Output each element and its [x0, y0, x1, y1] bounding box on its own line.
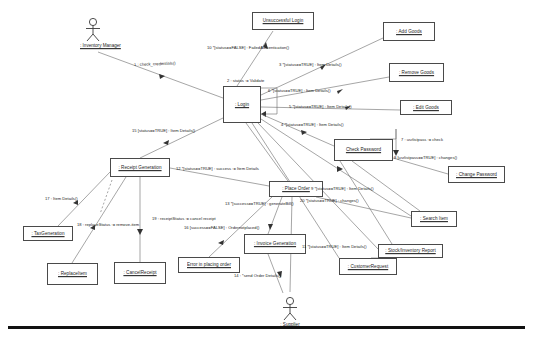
message-label-m14: 14 : *send Order Details(): [234, 273, 281, 278]
object-node-receipt-generation[interactable]: : Receipt Generation: [110, 158, 170, 177]
message-label-m18: 18 : replaceStatus := remove-item: [77, 222, 139, 227]
object-node-customer-request[interactable]: : CustomerRequest: [339, 258, 397, 275]
object-label-customer-request: : CustomerRequest: [348, 264, 388, 270]
message-label-m4: 4 *[status==TRUE] : Item Details(): [281, 122, 344, 127]
object-node-login[interactable]: : Login: [223, 86, 261, 123]
object-node-unsuccessful-login[interactable]: Unsuccessful Login: [252, 12, 314, 30]
object-node-cancel-receipt[interactable]: : CancelReceipt: [114, 262, 166, 284]
object-node-stock-inventory-report[interactable]: : Stock/Inventory Report: [378, 244, 443, 258]
object-label-error-placing-order: Error in placing order: [187, 262, 231, 268]
object-label-cancel-receipt: : CancelReceipt: [123, 270, 156, 276]
message-label-m2: 2 : status := Validate: [227, 78, 264, 83]
actor-label-inventory-manager: : Inventory Manager: [80, 43, 106, 48]
message-label-m17: 17 : Item Details(): [45, 196, 78, 201]
uml-collaboration-diagram: Unsuccessful Login: Add Goods: Remove Go…: [0, 0, 533, 339]
object-label-add-goods: : Add Goods: [396, 29, 422, 35]
message-label-m20: 20 *[status==TRUE] : changes(): [300, 198, 359, 203]
actor-inventory-manager[interactable]: : Inventory Manager: [80, 17, 106, 48]
object-node-add-goods[interactable]: : Add Goods: [383, 22, 435, 41]
message-label-m12: 12 *[status==TRUE] : success := Item Det…: [176, 166, 259, 171]
object-label-change-password: : Change Password: [456, 172, 497, 178]
message-label-m5: 5 *[status==TRUE] : Item Details(): [289, 104, 352, 109]
object-label-stock-inventory-report: : Stock/Inventory Report: [385, 248, 435, 254]
object-label-edit-goods: : Edit Goods: [413, 105, 439, 111]
object-node-edit-goods[interactable]: : Edit Goods: [400, 100, 452, 115]
object-node-replace-item[interactable]: : ReplaceItem: [47, 263, 98, 285]
message-label-m9: 9 *[status==TRUE] : Item Details(): [311, 186, 374, 191]
actor-supplier[interactable]: : Supplier: [277, 296, 303, 327]
object-node-invoice-generation[interactable]: : Invoice Generation: [244, 234, 306, 254]
message-label-m7: 7 : usrlistpass := check: [401, 137, 443, 142]
object-node-tax-generation[interactable]: : TaxGeneration: [23, 226, 73, 241]
footer-rule: [8, 326, 525, 329]
object-node-search-item[interactable]: : Search Item: [411, 211, 457, 227]
message-label-m11: 11 *[status==TRUE] : Item Details(): [302, 244, 367, 249]
object-node-check-password[interactable]: Check Password: [334, 139, 393, 161]
message-label-m1: 1 : check_credentials(): [134, 61, 176, 67]
message-label-m19: 19 : receiptStatus := cancel receipt: [152, 216, 216, 221]
object-label-unsuccessful-login: Unsuccessful Login: [263, 18, 304, 24]
object-label-invoice-generation: : Invoice Generation: [254, 241, 296, 247]
message-label-m13: 13 *[success==TRUE] : generateBill(): [225, 201, 294, 206]
object-label-check-password: Check Password: [346, 147, 381, 153]
object-label-login: : Login: [235, 102, 249, 108]
object-node-error-placing-order[interactable]: Error in placing order: [178, 257, 240, 273]
object-node-change-password[interactable]: : Change Password: [448, 166, 505, 183]
diagram-node-layer: Unsuccessful Login: Add Goods: Remove Go…: [0, 0, 533, 339]
object-label-replace-item: : ReplaceItem: [58, 271, 87, 277]
message-label-m16: 16 [success==FALSE] : Ordernotplaced(): [184, 225, 259, 230]
message-label-m3: 3 *[status==TRUE] : Item Details(): [279, 62, 342, 67]
object-label-remove-goods: : Remove Goods: [399, 70, 434, 76]
message-label-m6: 6 *[status==TRUE] : Item Details(): [268, 88, 331, 93]
message-label-m8: 8 [usrlistpass==TRUE] : changes(): [394, 155, 457, 160]
object-label-receipt-generation: : Receipt Generation: [118, 165, 161, 171]
object-label-tax-generation: : TaxGeneration: [31, 231, 64, 237]
object-label-search-item: : Search Item: [420, 216, 448, 222]
object-node-remove-goods[interactable]: : Remove Goods: [389, 63, 444, 82]
message-label-m15: 15 [status==TRUE] : Item Details(): [132, 128, 195, 133]
object-label-place-order: : Place Order: [282, 186, 310, 192]
message-label-m10: 10 *[status==FALSE] : FailedAuthenticati…: [207, 45, 289, 50]
